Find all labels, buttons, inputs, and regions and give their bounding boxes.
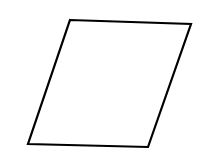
diagram-svg (0, 0, 197, 157)
diagram-canvas (0, 0, 197, 157)
parallelogram-shape (28, 20, 191, 147)
